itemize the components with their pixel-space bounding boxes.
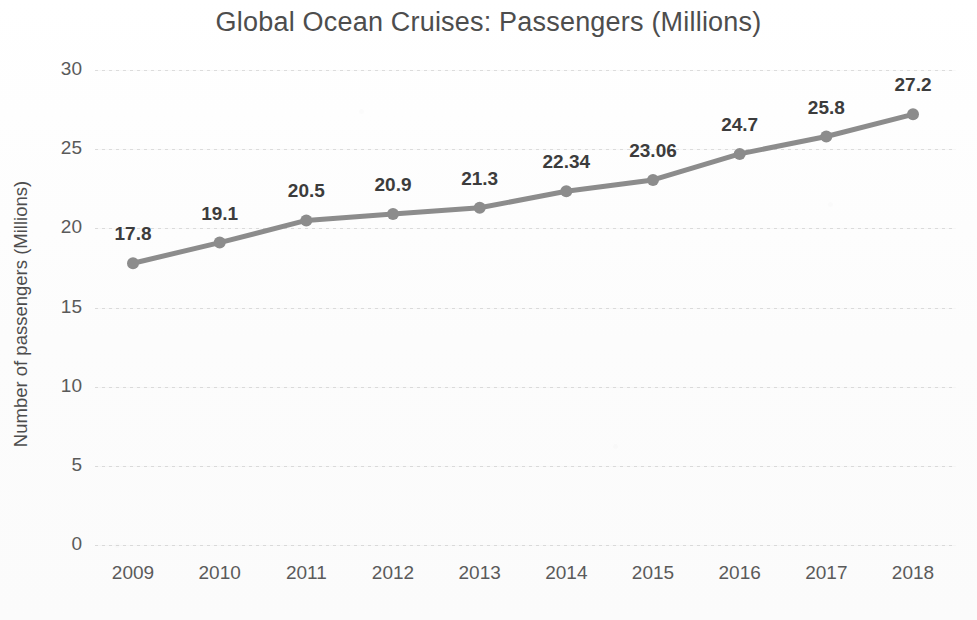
data-point-label: 21.3: [440, 168, 520, 190]
data-point-label: 23.06: [613, 140, 693, 162]
data-point-marker: [820, 131, 832, 143]
data-point-marker: [907, 108, 919, 120]
data-point-marker: [647, 174, 659, 186]
data-point-label: 25.8: [786, 97, 866, 119]
data-point-label: 17.8: [93, 223, 173, 245]
series-markers: [127, 108, 919, 269]
series-line: [133, 114, 913, 263]
data-point-label: 20.5: [266, 180, 346, 202]
data-point-marker: [127, 257, 139, 269]
data-point-marker: [474, 202, 486, 214]
data-point-label: 22.34: [526, 151, 606, 173]
data-point-marker: [387, 208, 399, 220]
data-point-marker: [560, 185, 572, 197]
data-point-label: 27.2: [873, 74, 953, 96]
data-point-label: 19.1: [180, 203, 260, 225]
chart-page: Global Ocean Cruises: Passengers (Millio…: [0, 0, 977, 620]
data-point-label: 24.7: [700, 114, 780, 136]
data-point-marker: [214, 237, 226, 249]
data-point-label: 20.9: [353, 174, 433, 196]
line-series-plot: [0, 0, 977, 620]
data-point-marker: [300, 214, 312, 226]
data-point-marker: [734, 148, 746, 160]
